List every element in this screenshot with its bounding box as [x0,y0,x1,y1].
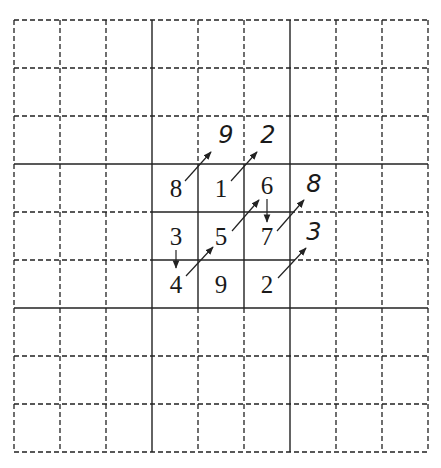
outer-label: 8 [306,170,321,198]
cell-digit: 5 [215,223,228,250]
outer-label: 2 [260,121,275,149]
arrows [176,152,306,278]
arrow-icon [278,248,306,278]
cell-digit: 3 [170,223,183,250]
cell-digit: 7 [261,223,274,250]
arrow-icon [232,200,259,231]
cell-digit: 6 [261,172,274,199]
outer-label: 3 [306,218,321,246]
cell-digit: 8 [170,175,183,202]
center-digits: 8 1 6 3 5 7 4 9 2 [170,172,274,298]
arrow-icon [186,247,213,276]
cell-digit: 1 [215,175,228,202]
cell-digit: 9 [215,271,228,298]
magic-square-diagram: 8 1 6 3 5 7 4 9 2 9 2 8 3 [0,0,441,468]
cell-digit: 4 [170,271,183,298]
outer-label: 9 [218,121,233,149]
cell-digit: 2 [261,271,274,298]
